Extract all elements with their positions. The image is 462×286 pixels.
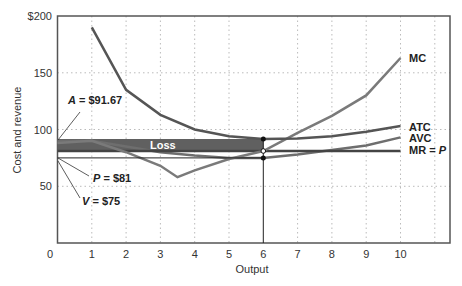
mr-point: [261, 149, 266, 154]
y-tick-200: $200: [28, 10, 52, 22]
avc-point: [261, 155, 266, 160]
loss-label: Loss: [150, 139, 176, 151]
y-tick-50: 50: [40, 180, 52, 192]
p-leader: [58, 158, 89, 176]
gridlines: [58, 16, 451, 243]
y-axis-label: Cost and revenue: [11, 87, 23, 174]
x-tick-2: 2: [123, 248, 129, 260]
v-leader: [58, 161, 80, 198]
x-tick-5: 5: [226, 248, 232, 260]
a-annotation: A = $91.67: [67, 94, 122, 106]
x-tick-6: 6: [260, 248, 266, 260]
x-axis-label: Output: [235, 263, 268, 275]
x-tick-1: 1: [89, 248, 95, 260]
x-tick-10: 10: [394, 248, 406, 260]
x-tick-0: 0: [47, 248, 53, 260]
p-annotation: P = $81: [93, 172, 131, 184]
atc-curve: [92, 27, 401, 139]
avc-label: AVC: [409, 132, 431, 144]
mr-p-label: MR = P: [409, 144, 447, 156]
a-leader: [58, 112, 80, 140]
y-tick-100: 100: [34, 124, 52, 136]
x-tick-8: 8: [329, 248, 335, 260]
x-tick-9: 9: [363, 248, 369, 260]
y-tick-150: 150: [34, 67, 52, 79]
x-tick-3: 3: [157, 248, 163, 260]
x-tick-7: 7: [295, 248, 301, 260]
mc-label: MC: [409, 52, 426, 64]
x-tick-4: 4: [192, 248, 198, 260]
v-annotation: V = $75: [82, 195, 120, 207]
cost-revenue-chart: Loss A = $91.67 P = $81 V = $75 MC ATC A…: [0, 0, 462, 286]
atc-point: [261, 137, 266, 142]
